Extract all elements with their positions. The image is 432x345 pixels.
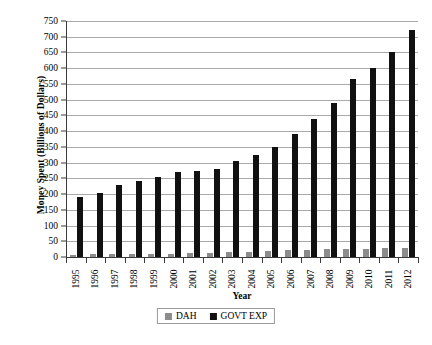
bar-group — [106, 21, 126, 257]
x-tick-label: 1995 — [71, 270, 81, 289]
bar-group — [145, 21, 165, 257]
y-tick-label: 700 — [44, 32, 58, 42]
bar-group — [321, 21, 341, 257]
x-tick-label: 2006 — [286, 270, 296, 289]
y-tick-label: 50 — [49, 236, 59, 246]
bar-govt-exp — [97, 193, 103, 258]
bar-group — [67, 21, 87, 257]
bar-govt-exp — [389, 52, 395, 257]
bar-dah — [402, 248, 408, 257]
bar-dah — [324, 249, 330, 257]
bar-group — [282, 21, 302, 257]
bar-group — [301, 21, 321, 257]
y-tick-label: 750 — [44, 16, 58, 26]
bar-dah — [285, 250, 291, 257]
bar-govt-exp — [311, 119, 317, 257]
legend-item: GOVT EXP — [210, 311, 268, 321]
bar-govt-exp — [350, 79, 356, 257]
y-tick-label: 400 — [44, 126, 58, 136]
bar-group — [223, 21, 243, 257]
bar-dah — [343, 249, 349, 257]
legend-label: GOVT EXP — [221, 311, 268, 321]
chart-legend: DAHGOVT EXP — [157, 308, 275, 324]
x-tick-label: 2002 — [208, 270, 218, 289]
x-axis-title: Year — [66, 291, 418, 301]
bar-dah — [382, 248, 388, 257]
x-tick-label: 2001 — [188, 270, 198, 289]
bar-group — [243, 21, 263, 257]
y-tick-label: 450 — [44, 110, 58, 120]
x-tick-label: 2010 — [364, 270, 374, 289]
bar-govt-exp — [136, 181, 142, 257]
y-tick-label: 200 — [44, 189, 58, 199]
x-tick-label: 1996 — [90, 270, 100, 289]
bar-groups — [67, 21, 418, 257]
bar-group — [262, 21, 282, 257]
x-tick-label: 2008 — [325, 270, 335, 289]
y-tick-label: 150 — [44, 205, 58, 215]
bar-govt-exp — [214, 169, 220, 257]
y-tick-label: 0 — [53, 252, 58, 262]
bar-govt-exp — [292, 134, 298, 257]
x-tick-label: 2009 — [345, 270, 355, 289]
bar-group — [165, 21, 185, 257]
y-tick-label: 550 — [44, 79, 58, 89]
y-tick-label: 500 — [44, 95, 58, 105]
y-tick-label: 250 — [44, 173, 58, 183]
bar-group — [126, 21, 146, 257]
bar-govt-exp — [233, 161, 239, 257]
bar-govt-exp — [77, 197, 83, 257]
bar-govt-exp — [194, 171, 200, 257]
bar-group — [87, 21, 107, 257]
x-tick-mark — [418, 257, 419, 263]
legend-item: DAH — [165, 311, 197, 321]
x-tick-label: 2005 — [266, 270, 276, 289]
x-tick-label: 2007 — [306, 270, 316, 289]
x-tick-label: 1997 — [110, 270, 120, 289]
bar-govt-exp — [370, 68, 376, 257]
bar-dah — [363, 249, 369, 257]
y-tick-label: 600 — [44, 63, 58, 73]
legend-swatch-icon — [165, 313, 172, 320]
x-tick-label: 1999 — [149, 270, 159, 289]
x-tick-label: 2000 — [169, 270, 179, 289]
plot-area — [66, 21, 418, 257]
x-tick-label: 2012 — [403, 270, 413, 289]
legend-swatch-icon — [210, 313, 217, 320]
y-tick-label: 650 — [44, 47, 58, 57]
y-axis-ticks: 0501001502002503003504004505005506006507… — [0, 21, 66, 257]
bar-dah — [304, 250, 310, 257]
x-tick-label: 1998 — [129, 270, 139, 289]
chart-figure: Money Spent (Billions of Dollars) 050100… — [0, 0, 432, 345]
legend-label: DAH — [176, 311, 197, 321]
bar-govt-exp — [175, 172, 181, 257]
x-tick-label: 2004 — [247, 270, 257, 289]
y-tick-label: 100 — [44, 221, 58, 231]
x-tick-label: 2003 — [227, 270, 237, 289]
bar-govt-exp — [155, 177, 161, 257]
bar-govt-exp — [409, 30, 415, 257]
x-tick-label: 2011 — [384, 270, 394, 289]
bar-group — [399, 21, 419, 257]
y-tick-label: 300 — [44, 158, 58, 168]
bar-group — [204, 21, 224, 257]
bar-govt-exp — [253, 155, 259, 257]
bar-group — [184, 21, 204, 257]
bar-govt-exp — [116, 185, 122, 257]
bar-group — [360, 21, 380, 257]
bar-govt-exp — [272, 147, 278, 257]
bar-group — [340, 21, 360, 257]
bar-group — [379, 21, 399, 257]
y-tick-label: 350 — [44, 142, 58, 152]
bar-govt-exp — [331, 103, 337, 257]
